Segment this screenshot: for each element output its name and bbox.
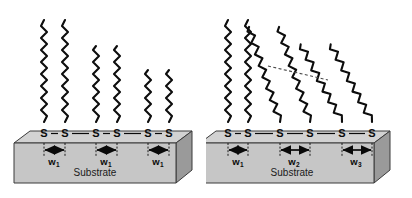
sulfur-atom: S xyxy=(306,127,313,139)
chain-L1 xyxy=(41,20,47,122)
sulfur-atom: S xyxy=(113,127,120,139)
sulfur-atom: S xyxy=(92,127,99,139)
sulfur-atom: S xyxy=(276,127,283,139)
width-subscript: 1 xyxy=(56,161,60,168)
substrate-label: Substrate xyxy=(271,167,314,178)
chain-group-left xyxy=(41,20,172,122)
chain-L5 xyxy=(145,70,151,122)
figure-canvas: S S S S S S w xyxy=(0,0,412,198)
sulfur-atom: S xyxy=(368,127,375,139)
sulfur-atom: S xyxy=(224,127,231,139)
sulfur-atom: S xyxy=(40,127,47,139)
sulfur-atom: S xyxy=(144,127,151,139)
panel-right: S S S S S S w xyxy=(206,0,412,198)
width-label: w xyxy=(287,156,296,167)
chain-L6 xyxy=(166,70,172,122)
sulfur-atom: S xyxy=(244,127,251,139)
width-label: w xyxy=(231,156,240,167)
width-label: w xyxy=(47,156,56,167)
width-subscript: 3 xyxy=(358,161,362,168)
sulfur-atom: S xyxy=(61,127,68,139)
panel-right-drawing: S S S S S S w xyxy=(206,0,412,198)
sulfur-atom: S xyxy=(338,127,345,139)
width-label: w xyxy=(99,156,108,167)
chain-R1 xyxy=(225,20,231,122)
chain-L4 xyxy=(114,46,120,122)
substrate-label: Substrate xyxy=(74,167,117,178)
chain-L2 xyxy=(62,20,68,122)
width-label: w xyxy=(349,156,358,167)
chain-L3 xyxy=(93,46,99,122)
width-subscript: 1 xyxy=(240,161,244,168)
sulfur-atom: S xyxy=(165,127,172,139)
chain-group-right xyxy=(225,20,375,123)
width-subscript: 1 xyxy=(160,161,164,168)
panel-left: S S S S S S w xyxy=(0,0,206,198)
width-label: w xyxy=(151,156,160,167)
panel-left-drawing: S S S S S S w xyxy=(0,0,206,198)
